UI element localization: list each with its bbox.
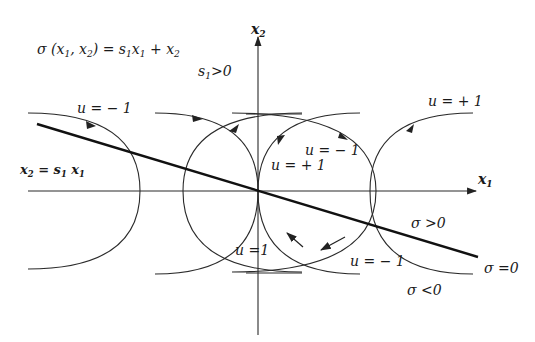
label-sigma-negative: σ <0: [407, 283, 442, 297]
label-u-plus-center: u = + 1: [271, 158, 326, 172]
label-u-one-bottom: u =1: [235, 243, 269, 257]
label-sigma-positive: σ >0: [411, 216, 446, 230]
flow-arrow-up-left: [287, 233, 303, 247]
x1-axis-label: x1: [478, 172, 493, 188]
switching-line-equation: x2 = s1 x1: [20, 163, 85, 178]
s1-condition: s1>0: [198, 64, 232, 81]
arrow-icon: [277, 135, 285, 145]
sigma-definition: σ (x1, x2) = s1x1 + x2: [37, 42, 180, 59]
x2-axis-label: x2: [251, 22, 266, 38]
label-sigma-zero: σ =0: [484, 261, 519, 275]
label-u-minus-center: u = − 1: [305, 143, 360, 157]
arrow-icon: [192, 115, 203, 122]
flow-arrow-down-left: [321, 237, 345, 250]
label-u-minus-top-left: u = − 1: [77, 101, 132, 115]
label-u-minus-bottom: u = − 1: [350, 254, 405, 268]
label-u-plus-top-right: u = + 1: [428, 94, 483, 108]
